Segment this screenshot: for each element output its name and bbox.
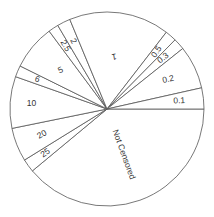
pie-chart: Not Censored252010652.5210.50.30.20.1 [0, 0, 214, 217]
pie-label-10: 10 [27, 98, 37, 108]
pie-label-0.1: 0.1 [173, 95, 186, 106]
